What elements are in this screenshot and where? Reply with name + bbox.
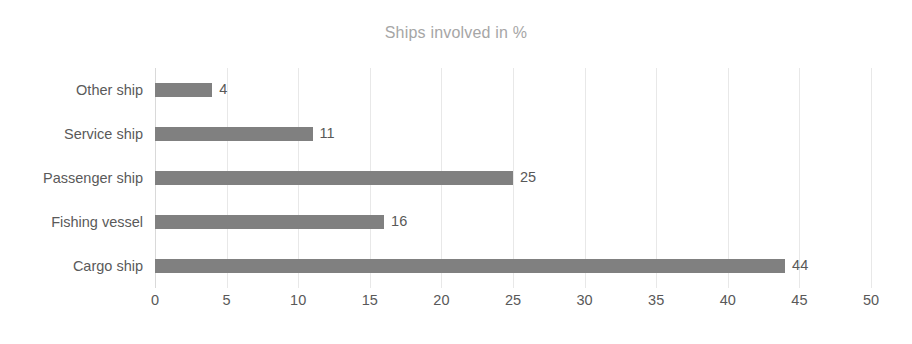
x-axis-tick-label: 5	[223, 292, 231, 308]
x-axis-tick-label: 15	[362, 292, 378, 308]
plot-area: 411251644	[155, 68, 871, 288]
x-axis-tick-label: 10	[290, 292, 306, 308]
bar-row: 25	[155, 156, 871, 200]
bar-value-label: 25	[520, 169, 536, 185]
bar	[155, 259, 785, 273]
bar-row: 44	[155, 244, 871, 288]
x-axis-tick-label: 30	[577, 292, 593, 308]
chart-title: Ships involved in %	[0, 24, 912, 42]
bar	[155, 83, 212, 97]
bar	[155, 215, 384, 229]
x-axis-tick-label: 0	[151, 292, 159, 308]
bar-row: 4	[155, 68, 871, 112]
y-axis-category-label: Cargo ship	[3, 258, 143, 274]
bar-value-label: 4	[219, 81, 227, 97]
bar	[155, 171, 513, 185]
y-axis-category-label: Passenger ship	[3, 170, 143, 186]
bar-row: 16	[155, 200, 871, 244]
x-axis-tick-label: 45	[791, 292, 807, 308]
gridline	[871, 68, 872, 288]
bar-value-label: 44	[792, 257, 808, 273]
x-axis-tick-label: 35	[648, 292, 664, 308]
bar-value-label: 11	[320, 125, 335, 141]
x-axis-tick-label: 50	[863, 292, 879, 308]
y-axis-category-label: Other ship	[3, 82, 143, 98]
bar	[155, 127, 313, 141]
x-axis-tick-label: 40	[720, 292, 736, 308]
bar-row: 11	[155, 112, 871, 156]
y-axis-category-labels: Other shipService shipPassenger shipFish…	[0, 68, 143, 288]
x-axis-tick-labels: 05101520253035404550	[155, 292, 871, 322]
x-axis-tick-label: 20	[433, 292, 449, 308]
bar-chart: Ships involved in % Other shipService sh…	[0, 0, 912, 344]
y-axis-category-label: Service ship	[3, 126, 143, 142]
y-axis-category-label: Fishing vessel	[3, 214, 143, 230]
x-axis-tick-label: 25	[505, 292, 521, 308]
bar-value-label: 16	[391, 213, 407, 229]
